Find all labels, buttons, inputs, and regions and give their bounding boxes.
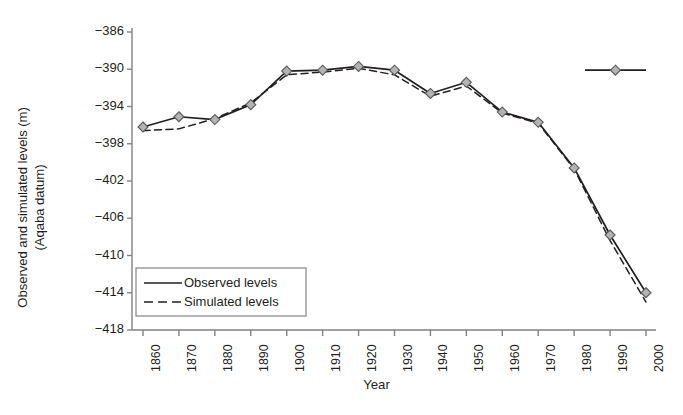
legend-label-simulated-levels: Simulated levels [184,294,279,309]
series-line [143,68,646,302]
y-ticks [127,32,132,330]
y-tick-label: −406 [78,209,124,224]
x-ticks [143,330,646,336]
chart-figure: Observed and simulated levels (m) (Aqaba… [0,0,683,415]
x-tick-label: 1890 [257,344,271,372]
y-tick-label: −418 [78,321,124,336]
x-tick-label: 1950 [472,344,486,372]
series-simulated-levels [143,68,646,302]
data-point-marker [210,115,220,125]
y-tick-label: −386 [78,23,124,38]
x-tick-label: 1870 [185,344,199,372]
x-tick-label: 1990 [616,344,630,372]
data-point-marker [425,88,435,98]
annotation-marker [610,65,620,75]
x-tick-label: 1940 [436,344,450,372]
data-point-marker [174,112,184,122]
series-observed-levels [143,66,646,292]
x-tick-label: 1960 [508,344,522,372]
x-tick-label: 1910 [329,344,343,372]
y-tick-label: −402 [78,172,124,187]
x-tick-label: 2000 [652,344,666,372]
y-tick-label: −394 [78,98,124,113]
x-tick-label: 1980 [580,344,594,372]
x-tick-label: 1970 [544,344,558,372]
x-axis-title: Year [0,377,683,392]
x-tick-label: 1880 [221,344,235,372]
x-tick-label: 1900 [293,344,307,372]
data-point-marker [354,61,364,71]
data-point-markers [138,61,651,297]
x-tick-label: 1920 [365,344,379,372]
data-point-marker [605,230,615,240]
y-tick-label: −410 [78,247,124,262]
series-line [143,66,646,292]
x-tick-label: 1930 [401,344,415,372]
data-point-marker [641,288,651,298]
y-tick-label: −390 [78,60,124,75]
x-tick-label: 1860 [149,344,163,372]
legend-label-observed-levels: Observed levels [184,275,277,290]
annotation-sample-marker [585,65,646,75]
data-point-marker [390,65,400,75]
y-tick-label: −414 [78,284,124,299]
y-tick-label: −398 [78,135,124,150]
data-point-marker [318,65,328,75]
